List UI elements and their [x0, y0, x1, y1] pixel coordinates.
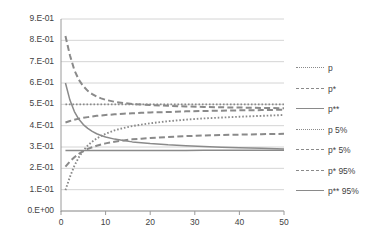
legend-key-swatch [296, 166, 324, 176]
series-line-p- [65, 36, 284, 108]
x-axis-tick-label: 20 [138, 217, 162, 227]
legend-item[interactable]: p* [296, 79, 377, 100]
legend-item-label: p** [328, 104, 339, 114]
x-axis-tick-label: 40 [227, 217, 251, 227]
legend-key-swatch [296, 145, 324, 155]
legend-line-icon [296, 149, 324, 150]
legend-item-label: p* 5% [328, 145, 351, 155]
x-axis-tick-marks [61, 211, 284, 215]
legend-item[interactable]: p* 5% [296, 140, 377, 161]
legend-line-icon [296, 67, 324, 68]
legend-key-swatch [296, 84, 324, 94]
gridlines [61, 19, 284, 211]
legend-item[interactable]: p 5% [296, 120, 377, 141]
legend-item-label: p* [328, 84, 336, 94]
legend-line-icon [296, 88, 324, 89]
x-axis-tick-label: 50 [272, 217, 296, 227]
x-axis-tick-label: 0 [49, 217, 73, 227]
legend-item[interactable]: p [296, 58, 377, 79]
legend-item-label: p** 95% [328, 186, 359, 196]
legend-line-icon [296, 108, 324, 109]
x-axis-tick-label: 30 [183, 217, 207, 227]
series-line-p-5- [65, 115, 284, 190]
chart-legend: pp*p**p 5%p* 5%p* 95%p** 95% [296, 58, 377, 202]
legend-key-swatch [296, 125, 324, 135]
legend-item-label: p [328, 63, 333, 73]
data-series-group [65, 36, 284, 190]
legend-item-label: p 5% [328, 125, 347, 135]
legend-item-label: p* 95% [328, 166, 355, 176]
series-line-p-95- [65, 110, 284, 123]
legend-item[interactable]: p** 95% [296, 181, 377, 202]
legend-line-icon [296, 129, 324, 130]
legend-line-icon [296, 170, 324, 171]
legend-item[interactable]: p* 95% [296, 161, 377, 182]
legend-key-swatch [296, 63, 324, 73]
legend-line-icon [296, 190, 324, 191]
x-axis-tick-label: 10 [94, 217, 118, 227]
legend-item[interactable]: p** [296, 99, 377, 120]
chart-container: 0.E+001.E-012.E-013.E-014.E-015.E-016.E-… [0, 0, 377, 240]
legend-key-swatch [296, 186, 324, 196]
legend-key-swatch [296, 104, 324, 114]
